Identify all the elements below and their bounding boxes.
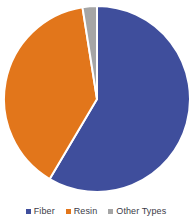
legend-swatch-other-types-icon <box>108 209 113 214</box>
legend-item-resin[interactable]: Resin <box>66 206 98 216</box>
legend-swatch-resin-icon <box>66 209 71 214</box>
legend-label-fiber: Fiber <box>34 206 55 216</box>
legend-item-fiber[interactable]: Fiber <box>26 206 55 216</box>
pie-plot-area <box>0 0 192 199</box>
pie-svg <box>0 0 192 199</box>
pie-chart-figure: Fiber Resin Other Types <box>0 0 192 221</box>
legend-swatch-fiber-icon <box>26 209 31 214</box>
legend-item-other-types[interactable]: Other Types <box>108 206 166 216</box>
pie-slice-group <box>4 6 190 192</box>
chart-legend: Fiber Resin Other Types <box>0 203 192 219</box>
legend-label-other-types: Other Types <box>116 206 166 216</box>
legend-label-resin: Resin <box>74 206 98 216</box>
